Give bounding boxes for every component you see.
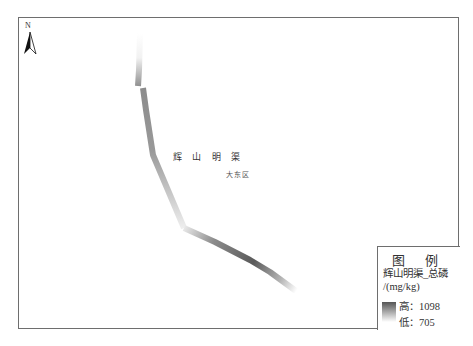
legend-field-line1: 辉山明渠_总磷: [383, 267, 448, 280]
district-label: 大东区: [226, 169, 250, 179]
legend-field-unit: /(mg/kg): [383, 280, 448, 293]
north-label: N: [25, 21, 31, 30]
canal-label: 辉 山 明 渠: [173, 150, 244, 163]
legend-color-ramp: [382, 302, 396, 322]
legend-field-name: 辉山明渠_总磷 /(mg/kg): [383, 267, 448, 293]
north-arrow-icon: [22, 30, 38, 66]
legend-high-label: 高：1098: [399, 298, 440, 313]
legend-low-label: 低：705: [399, 314, 435, 329]
legend: 图 例 辉山明渠_总磷 /(mg/kg) 高：1098 低：705: [377, 246, 460, 330]
